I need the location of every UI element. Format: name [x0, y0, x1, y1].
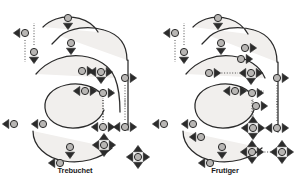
control-point-inner-top-apex[interactable]: [67, 39, 74, 46]
control-handle-arrow-right: [130, 122, 136, 131]
control-point-left-extreme[interactable]: [10, 120, 17, 127]
control-handle-arrow-left: [113, 122, 119, 131]
glyph-outline-svg: [0, 0, 300, 190]
diagram-canvas: Trebuchet Frutiger: [0, 0, 300, 190]
control-point-bowl-top-left[interactable]: [78, 67, 85, 74]
control-handle-arrow-left: [270, 147, 276, 156]
control-handle-arrow-down: [248, 133, 257, 139]
control-handle-arrow-left: [163, 28, 169, 37]
control-point-counter-left[interactable]: [39, 120, 46, 127]
control-handle-arrow-right: [108, 88, 114, 97]
control-point-stem-right-lower[interactable]: [249, 124, 256, 131]
control-handle-arrow-down: [277, 157, 286, 163]
control-point-bowl-top-left[interactable]: [205, 69, 212, 76]
control-point-tail-right[interactable]: [121, 123, 128, 130]
control-point-terminal-upper-left[interactable]: [21, 29, 28, 36]
glyph-fill-right: [183, 17, 278, 162]
control-handle-arrow-left: [265, 123, 271, 132]
panel-trebuchet: [2, 14, 149, 168]
control-point-stem-right-upper[interactable]: [273, 74, 280, 81]
control-point-counter-top-right[interactable]: [248, 89, 255, 96]
control-handle-arrow-left: [2, 119, 8, 128]
control-handle-arrow-left: [31, 119, 37, 128]
control-point-counter-left[interactable]: [189, 120, 196, 127]
control-point-inner-top-apex[interactable]: [217, 39, 224, 46]
control-handle-arrow-down: [29, 57, 38, 63]
caption-frutiger: Frutiger: [150, 166, 300, 175]
control-point-tail-right[interactable]: [273, 124, 280, 131]
control-point-top-apex[interactable]: [214, 14, 221, 21]
control-handle-arrow-left: [13, 28, 19, 37]
control-point-left-extreme[interactable]: [160, 120, 167, 127]
control-handle-arrow-up: [99, 133, 108, 139]
control-point-counter-bottom[interactable]: [218, 143, 225, 150]
control-handle-arrow-left: [241, 123, 247, 132]
control-point-counter-top-right[interactable]: [99, 89, 106, 96]
control-handle-arrow-right: [282, 73, 288, 82]
control-handle-arrow-left: [126, 152, 132, 161]
control-point-terminal-lower-left[interactable]: [180, 48, 187, 55]
control-point-spur-junction[interactable]: [248, 148, 255, 155]
control-point-stem-upper-junction[interactable]: [97, 68, 104, 75]
control-handle-arrow-right: [143, 152, 149, 161]
control-point-counter-lower-left[interactable]: [197, 133, 204, 140]
control-handle-arrow-down: [246, 78, 255, 84]
control-point-stem-right-lower[interactable]: [99, 123, 106, 130]
control-handle-arrow-up: [247, 140, 256, 146]
control-point-counter-top[interactable]: [231, 87, 238, 94]
control-handle-arrow-right: [287, 147, 293, 156]
control-point-stem-upper-junction[interactable]: [247, 69, 254, 76]
control-point-terminal-upper-left[interactable]: [171, 29, 178, 36]
control-point-counter-bottom[interactable]: [66, 143, 73, 150]
control-handle-arrow-down: [179, 57, 188, 63]
control-handle-arrow-down: [216, 48, 225, 54]
glyph-fill-left: [33, 17, 128, 162]
caption-trebuchet: Trebuchet: [0, 166, 150, 175]
control-handle-arrow-right: [130, 73, 136, 82]
control-handle-arrow-right: [261, 101, 267, 110]
control-handle-arrow-up: [277, 140, 286, 146]
control-handle-arrow-left: [152, 119, 158, 128]
control-point-tail-terminal[interactable]: [278, 148, 285, 155]
control-point-tail-terminal[interactable]: [134, 153, 141, 160]
control-point-terminal-lower-left[interactable]: [30, 48, 37, 55]
control-point-shoulder-right[interactable]: [241, 44, 248, 51]
control-handle-arrow-down: [96, 77, 105, 83]
control-point-top-apex[interactable]: [64, 14, 71, 21]
control-handle-arrow-down: [66, 48, 75, 54]
control-handle-arrow-right: [282, 123, 288, 132]
control-handle-arrow-right: [258, 123, 264, 132]
control-point-spur-junction[interactable]: [100, 141, 107, 148]
control-handle-arrow-down: [247, 157, 256, 163]
control-point-stem-right-upper[interactable]: [121, 74, 128, 81]
control-handle-arrow-right: [257, 88, 263, 97]
control-point-counter-right[interactable]: [252, 102, 259, 109]
panel-frutiger: [152, 14, 293, 167]
control-point-shoulder-curve[interactable]: [237, 55, 244, 62]
control-handle-arrow-left: [181, 119, 187, 128]
control-handle-arrow-up: [133, 145, 142, 151]
control-point-counter-top[interactable]: [81, 87, 88, 94]
